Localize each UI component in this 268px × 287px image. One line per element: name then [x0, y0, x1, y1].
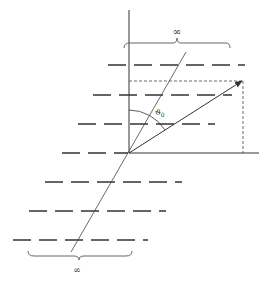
bottom-brace: ∞	[28, 251, 132, 275]
angle-arc: ϑ0	[129, 108, 165, 130]
angle-label: ϑ0	[155, 108, 165, 118]
bottom-infinity-label: ∞	[73, 265, 81, 275]
top-brace: ∞	[124, 26, 230, 48]
top-infinity-label: ∞	[173, 26, 181, 37]
diagram-canvas: ∞ ϑ0	[0, 0, 268, 287]
vector-arrow	[129, 81, 242, 153]
